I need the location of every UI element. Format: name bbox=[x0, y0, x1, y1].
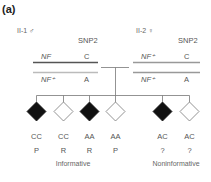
offspring-3-outcome: R bbox=[80, 146, 100, 155]
offspring-6-unaffected-diamond bbox=[180, 102, 199, 121]
offspring-2-outcome: R bbox=[54, 146, 74, 155]
offspring-2-unaffected-diamond bbox=[54, 102, 73, 121]
offspring-1-outcome: P bbox=[27, 146, 47, 155]
offspring-5-affected-diamond bbox=[153, 102, 172, 121]
offspring-5-outcome: ? bbox=[153, 146, 173, 155]
offspring-3-genotype: AA bbox=[80, 132, 100, 141]
offspring-1-affected-diamond bbox=[27, 102, 46, 121]
group-noninformative-label: Noninformative bbox=[145, 160, 207, 167]
offspring-1-genotype: CC bbox=[27, 132, 47, 141]
offspring-2-genotype: CC bbox=[54, 132, 74, 141]
offspring-4-outcome: P bbox=[106, 146, 126, 155]
offspring-5-genotype: AC bbox=[153, 132, 173, 141]
offspring-6-genotype: AC bbox=[180, 132, 200, 141]
group-informative-label: Informative bbox=[43, 160, 103, 167]
offspring-4-genotype: AA bbox=[106, 132, 126, 141]
offspring-6-outcome: ? bbox=[180, 146, 200, 155]
offspring-3-affected-diamond bbox=[80, 102, 99, 121]
offspring-4-unaffected-diamond bbox=[106, 102, 125, 121]
